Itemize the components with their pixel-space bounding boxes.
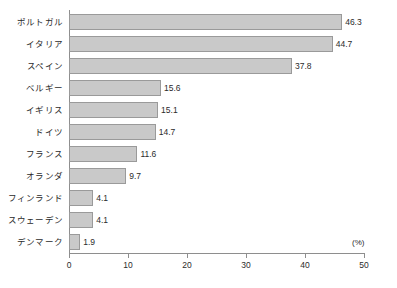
category-label: イギリス (0, 102, 63, 118)
bar-row: デンマーク1.9 (0, 234, 397, 256)
bar-row: ポルトガル46.3 (0, 14, 397, 36)
bar (69, 212, 93, 228)
bar-value-label: 37.8 (295, 58, 312, 74)
x-axis-tick (128, 254, 129, 258)
bar-value-label: 14.7 (159, 124, 176, 140)
bar-row: オランダ9.7 (0, 168, 397, 190)
category-label: ベルギー (0, 80, 63, 96)
x-axis-tick (246, 254, 247, 258)
bar (69, 190, 93, 206)
x-axis-tick-label: 30 (226, 260, 266, 270)
category-label: フィンランド (0, 190, 63, 206)
x-axis-tick (187, 254, 188, 258)
category-label: ドイツ (0, 124, 63, 140)
bar (69, 14, 342, 30)
bar-row: ドイツ14.7 (0, 124, 397, 146)
x-axis-tick-label: 40 (285, 260, 325, 270)
x-axis-tick-label: 0 (49, 260, 89, 270)
bar-row: フランス11.6 (0, 146, 397, 168)
bar-value-label: 11.6 (140, 146, 156, 162)
bar-value-label: 1.9 (83, 234, 95, 250)
bar-chart: ポルトガル46.3イタリア44.7スペイン37.8ベルギー15.6イギリス15.… (0, 0, 397, 288)
bar (69, 58, 292, 74)
x-axis-tick-label: 20 (167, 260, 207, 270)
category-label: イタリア (0, 36, 63, 52)
category-label: フランス (0, 146, 63, 162)
bar (69, 146, 137, 162)
x-axis-tick-label: 50 (344, 260, 384, 270)
category-label: スペイン (0, 58, 63, 74)
bar (69, 234, 80, 250)
bar-value-label: 46.3 (345, 14, 362, 30)
axis-unit-label: (%) (352, 238, 364, 247)
x-axis-tick (69, 254, 70, 258)
bar-value-label: 9.7 (129, 168, 141, 184)
bar-value-label: 4.1 (96, 212, 108, 228)
x-axis-tick-label: 10 (108, 260, 148, 270)
bar-value-label: 15.6 (164, 80, 181, 96)
bar (69, 124, 156, 140)
x-axis-tick (364, 254, 365, 258)
bar-row: フィンランド4.1 (0, 190, 397, 212)
bar (69, 36, 333, 52)
bar-row: スペイン37.8 (0, 58, 397, 80)
bar-row: ベルギー15.6 (0, 80, 397, 102)
bar-row: スウェーデン4.1 (0, 212, 397, 234)
bar-value-label: 44.7 (336, 36, 353, 52)
bar-row: イタリア44.7 (0, 36, 397, 58)
category-label: デンマーク (0, 234, 63, 250)
category-label: ポルトガル (0, 14, 63, 30)
bar (69, 168, 126, 184)
bar-value-label: 15.1 (161, 102, 178, 118)
bar-value-label: 4.1 (96, 190, 108, 206)
category-label: オランダ (0, 168, 63, 184)
bar-row: イギリス15.1 (0, 102, 397, 124)
category-label: スウェーデン (0, 212, 63, 228)
x-axis-tick (305, 254, 306, 258)
bar (69, 102, 158, 118)
bar (69, 80, 161, 96)
